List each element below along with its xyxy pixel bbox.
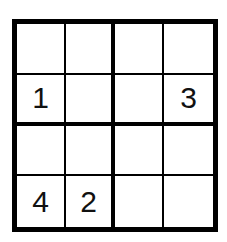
cell-r1-c2[interactable] <box>66 24 115 75</box>
cell-r1-c4[interactable] <box>164 24 213 75</box>
cell-r4-c2: 2 <box>66 176 115 227</box>
cell-r3-c2[interactable] <box>66 126 115 177</box>
cell-r4-c1: 4 <box>17 176 66 227</box>
sudoku-grid: 1 3 4 2 <box>12 19 218 232</box>
cell-r3-c4[interactable] <box>164 126 213 177</box>
cell-r1-c3[interactable] <box>115 24 164 75</box>
cell-r4-c4[interactable] <box>164 176 213 227</box>
cell-r1-c1[interactable] <box>17 24 66 75</box>
cell-r2-c4: 3 <box>164 75 213 126</box>
cell-r3-c1[interactable] <box>17 126 66 177</box>
cell-r2-c2[interactable] <box>66 75 115 126</box>
cell-r2-c3[interactable] <box>115 75 164 126</box>
cell-r4-c3[interactable] <box>115 176 164 227</box>
cell-r2-c1: 1 <box>17 75 66 126</box>
cell-r3-c3[interactable] <box>115 126 164 177</box>
